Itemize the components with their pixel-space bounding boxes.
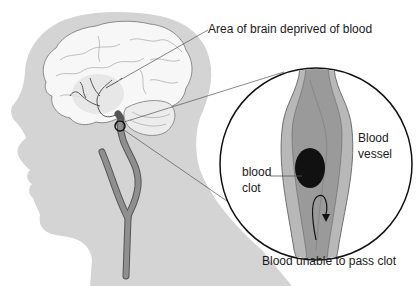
vessel-label-2: vessel xyxy=(358,147,392,161)
blood-clot xyxy=(295,148,325,188)
flow-label: Blood unable to pass clot xyxy=(262,254,396,268)
clot-label-1: blood xyxy=(242,165,271,179)
clot-label-2: clot xyxy=(242,181,261,195)
stroke-diagram xyxy=(0,0,418,286)
vessel-label-1: Blood xyxy=(358,131,389,145)
brain-area-label: Area of brain deprived of blood xyxy=(208,22,372,36)
